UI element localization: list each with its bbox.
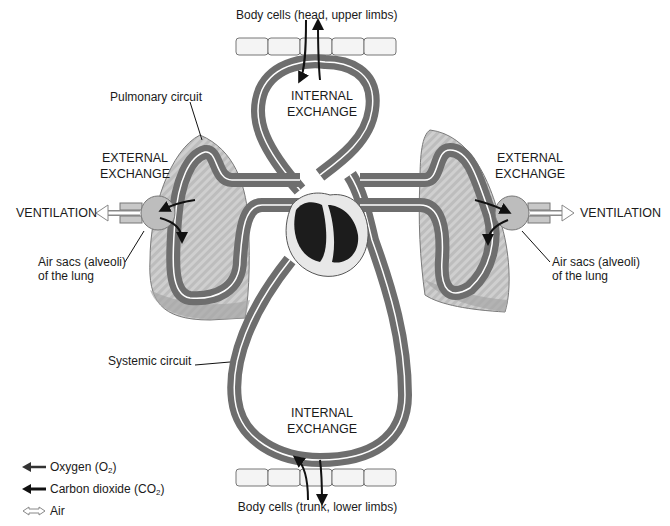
external-exchange-right-line2: EXCHANGE (495, 166, 565, 182)
internal-exchange-top-line1: INTERNAL (282, 88, 362, 104)
systemic-upper-loop (258, 61, 373, 190)
external-exchange-left-label: EXTERNAL EXCHANGE (100, 150, 170, 182)
legend-label-oxygen: Oxygen (O2) (50, 460, 116, 475)
legend-label-air: Air (50, 504, 65, 518)
top-body-cells-label: Body cells (head, upper limbs) (236, 8, 396, 22)
internal-exchange-bottom-label: INTERNAL EXCHANGE (282, 405, 362, 437)
air-arrow-icon (22, 506, 46, 516)
heart (286, 193, 368, 276)
ventilation-right-label: VENTILATION (580, 206, 661, 220)
internal-exchange-top-line2: EXCHANGE (282, 104, 362, 120)
air-sacs-right-line2: of the lung (552, 269, 640, 283)
air-sacs-right-label: Air sacs (alveoli) of the lung (552, 255, 640, 283)
external-exchange-right-label: EXTERNAL EXCHANGE (495, 150, 565, 182)
air-sacs-right-line1: Air sacs (alveoli) (552, 255, 640, 269)
ventilation-left-label: VENTILATION (16, 206, 97, 220)
systemic-circuit-label: Systemic circuit (108, 354, 191, 368)
pulmonary-circuit-label: Pulmonary circuit (110, 90, 202, 104)
legend: Oxygen (O2) Carbon dioxide (CO2) Air (22, 456, 165, 522)
oxygen-arrow-icon (22, 462, 46, 472)
external-exchange-left-line1: EXTERNAL (100, 150, 170, 166)
internal-exchange-bottom-line2: EXCHANGE (282, 421, 362, 437)
co2-arrow-icon (22, 484, 46, 494)
legend-item-co2: Carbon dioxide (CO2) (22, 478, 165, 500)
legend-item-oxygen: Oxygen (O2) (22, 456, 165, 478)
external-exchange-left-line2: EXCHANGE (100, 166, 170, 182)
bottom-body-cells-label: Body cells (trunk, lower limbs) (230, 500, 405, 514)
internal-exchange-bottom-line1: INTERNAL (282, 405, 362, 421)
legend-label-co2: Carbon dioxide (CO2) (50, 482, 165, 497)
air-sacs-left-line2: of the lung (38, 269, 126, 283)
internal-exchange-top-label: INTERNAL EXCHANGE (282, 88, 362, 120)
bottom-cell-strip (236, 469, 396, 486)
legend-item-air: Air (22, 500, 165, 522)
air-sacs-left-line1: Air sacs (alveoli) (38, 255, 126, 269)
external-exchange-right-line1: EXTERNAL (495, 150, 565, 166)
top-cell-strip (236, 38, 396, 55)
air-sacs-left-label: Air sacs (alveoli) of the lung (38, 255, 126, 283)
